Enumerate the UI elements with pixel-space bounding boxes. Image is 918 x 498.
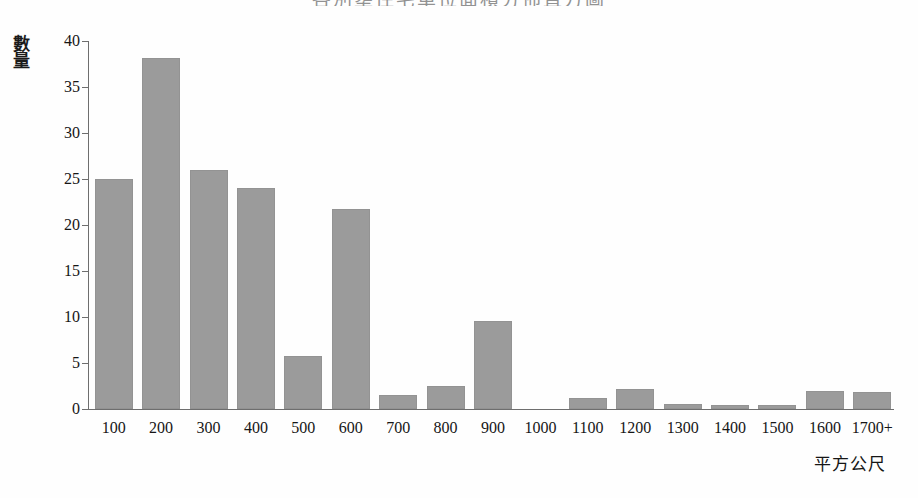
- bar: [616, 389, 654, 409]
- x-tick-label: 800: [422, 418, 469, 438]
- bar: [711, 405, 749, 409]
- x-tick-label: 1700+: [849, 418, 896, 438]
- y-tick-label: 15: [50, 263, 80, 279]
- bar: [853, 392, 891, 409]
- y-tick-label: 5: [50, 355, 80, 371]
- x-tick-label: 400: [232, 418, 279, 438]
- y-axis-title-char-1: 數: [10, 36, 32, 53]
- x-tick-label: 1500: [754, 418, 801, 438]
- bar: [284, 356, 322, 409]
- x-tick-label: 700: [374, 418, 421, 438]
- bar: [379, 395, 417, 409]
- bar: [237, 188, 275, 409]
- bar-series: [88, 41, 894, 409]
- bar: [806, 391, 844, 409]
- bar: [758, 405, 796, 409]
- y-tick-label: 35: [50, 79, 80, 95]
- x-tick-label: 300: [185, 418, 232, 438]
- bar: [569, 398, 607, 409]
- x-tick-label: 900: [469, 418, 516, 438]
- x-axis-title: 平方公尺: [0, 455, 886, 475]
- chart-title: 各別壅住宅單位面積分佈直方圖: [0, 0, 918, 6]
- x-axis-tick-labels: 1002003004005006007008009001000110012001…: [88, 418, 894, 444]
- x-tick-label: 600: [327, 418, 374, 438]
- y-tick-label: 30: [50, 125, 80, 141]
- y-tick-label: 25: [50, 171, 80, 187]
- y-tick-label: 20: [50, 217, 80, 233]
- bar: [332, 209, 370, 409]
- y-tick-mark: [82, 409, 88, 410]
- x-tick-label: 1400: [706, 418, 753, 438]
- x-tick-label: 100: [90, 418, 137, 438]
- plot-area: [88, 41, 894, 409]
- x-axis-line: [88, 409, 894, 410]
- x-tick-label: 1200: [612, 418, 659, 438]
- y-tick-label: 10: [50, 309, 80, 325]
- x-tick-label: 1600: [801, 418, 848, 438]
- bar: [427, 386, 465, 409]
- y-axis-title-char-2: 量: [10, 53, 32, 70]
- x-tick-label: 200: [137, 418, 184, 438]
- y-axis-title: 數 量: [10, 36, 32, 70]
- bar: [142, 58, 180, 409]
- x-tick-label: 500: [280, 418, 327, 438]
- bar: [190, 170, 228, 409]
- x-tick-label: 1100: [564, 418, 611, 438]
- y-tick-label: 0: [50, 401, 80, 417]
- y-axis-tick-labels: 0510152025303540: [46, 41, 80, 410]
- chart-figure: 各別壅住宅單位面積分佈直方圖 數 量 0510152025303540 1002…: [0, 0, 918, 498]
- bar: [474, 321, 512, 409]
- x-tick-label: 1000: [517, 418, 564, 438]
- y-tick-label: 40: [50, 33, 80, 49]
- bar: [95, 179, 133, 409]
- x-tick-label: 1300: [659, 418, 706, 438]
- bar: [664, 404, 702, 409]
